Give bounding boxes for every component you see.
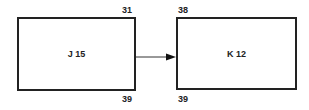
- edge-j-to-k-arrow: [0, 0, 309, 110]
